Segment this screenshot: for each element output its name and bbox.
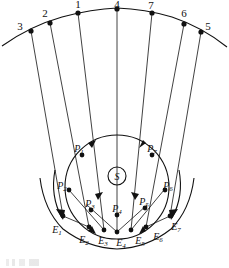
outer-label-6: 6 [181, 7, 187, 19]
outer-label-5: 5 [205, 20, 211, 32]
lower-label-E6: E6 [152, 231, 163, 244]
cropped-caption-remnant [6, 259, 50, 266]
outer-label-4: 4 [114, 0, 120, 10]
lower-label-E2: E2 [78, 234, 89, 247]
outer-label-3: 3 [17, 20, 23, 32]
outer-label-2: 2 [42, 7, 48, 19]
lower-point-labels: E1 E2 E3 E4 E5 E6 E7 [51, 221, 181, 250]
outer-point-dots [28, 6, 203, 34]
outer-label-1: 1 [75, 0, 81, 10]
lower-dot-E6 [144, 225, 149, 230]
lower-arc-arrow-right [131, 192, 139, 200]
outer-dot-5 [198, 29, 203, 34]
outer-dot-6 [181, 21, 186, 26]
outer-dot-2 [47, 20, 52, 25]
lower-dot-E2 [87, 225, 92, 230]
orbit-arrow-top-right [139, 140, 146, 148]
lower-dot-E5 [129, 228, 134, 233]
lower-arc-arrow-left [95, 192, 103, 200]
ray-5 [170, 32, 201, 216]
lower-dot-E3 [102, 228, 107, 233]
diagram-canvas: S 3 2 1 4 7 6 5 [0, 0, 229, 268]
cross-ray-left-c [63, 216, 89, 227]
outer-dot-7 [149, 10, 154, 15]
lower-dot-E7 [168, 214, 173, 219]
outer-dot-3 [28, 28, 33, 33]
cross-ray-right-c [146, 216, 170, 227]
outer-dot-1 [75, 10, 80, 15]
lower-dot-E4 [115, 230, 120, 235]
ray-bundle [31, 9, 201, 232]
outer-arc [2, 8, 227, 47]
lower-dot-E1 [61, 214, 66, 219]
lower-label-E7: E7 [170, 221, 181, 234]
central-body-label: S [115, 171, 120, 182]
diagram-figure: S 3 2 1 4 7 6 5 [0, 0, 229, 268]
ray-6 [146, 24, 184, 227]
outer-label-7: 7 [148, 0, 154, 11]
inner-dot-P2 [67, 188, 72, 193]
